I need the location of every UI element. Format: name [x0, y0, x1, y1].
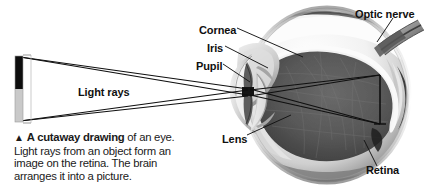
caption-lead-text: A cutaway drawing — [27, 131, 125, 143]
label-pupil: Pupil — [196, 60, 222, 72]
eye-diagram-figure: Light rays Cornea Iris Pupil Optic nerve… — [0, 0, 427, 191]
label-iris: Iris — [207, 42, 223, 54]
label-optic-nerve: Optic nerve — [355, 8, 414, 20]
object-bar — [15, 55, 31, 123]
label-light-rays: Light rays — [78, 86, 130, 98]
caption-triangle-icon: ▲ — [14, 132, 24, 143]
label-retina: Retina — [366, 164, 399, 176]
label-lens: Lens — [222, 133, 247, 145]
label-cornea: Cornea — [199, 24, 236, 36]
figure-caption: ▲ A cutaway drawing of an eye. Light ray… — [14, 131, 200, 182]
